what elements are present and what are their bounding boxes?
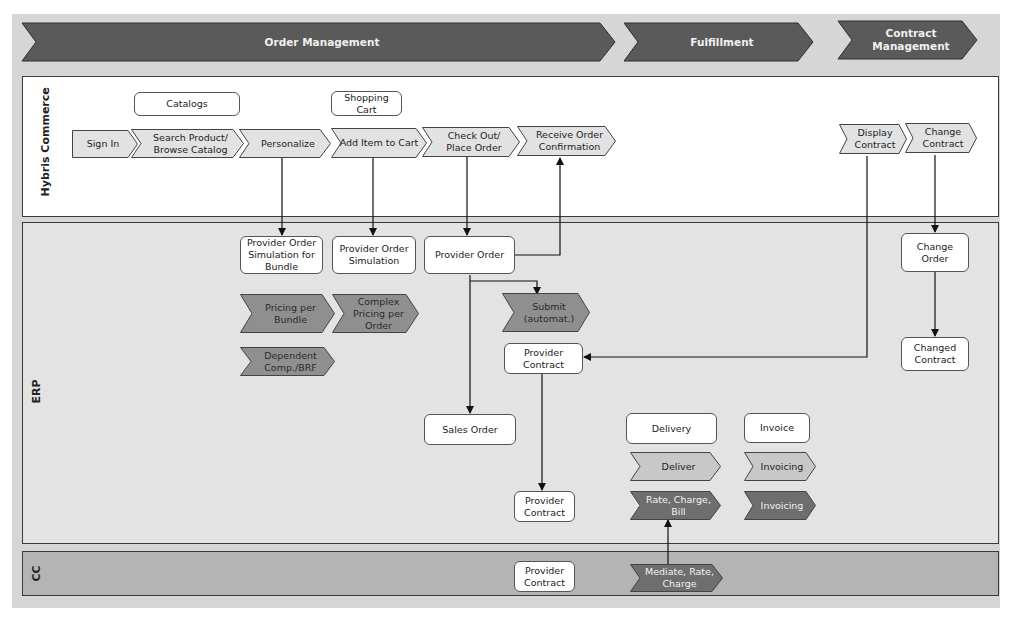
step-label: Rate, Charge, Bill	[632, 494, 719, 518]
changed-contract-box[interactable]: Changed Contract	[901, 337, 969, 371]
step-personalize[interactable]: Personalize	[239, 129, 331, 158]
step-label: Sign In	[83, 138, 128, 150]
step-label: Display Contract	[847, 127, 900, 151]
shopping-cart-box[interactable]: Shopping Cart	[331, 91, 402, 116]
change-order-box[interactable]: Change Order	[901, 233, 969, 272]
step-receive-confirmation[interactable]: Receive Order Confirmation	[517, 126, 616, 156]
sales-order-box[interactable]: Sales Order	[424, 414, 516, 445]
lane-label-erp: ERP	[30, 377, 43, 407]
dependent-comp-step[interactable]: Dependent Comp./BRF	[240, 347, 335, 376]
step-label: Add Item to Cart	[332, 137, 427, 149]
step-label: Invoicing	[751, 461, 810, 473]
invoice-box[interactable]: Invoice	[744, 413, 810, 443]
provider-order-box[interactable]: Provider Order	[424, 236, 515, 274]
lane-cc	[22, 551, 999, 596]
complex-pricing-step[interactable]: Complex Pricing per Order	[332, 294, 419, 333]
catalogs-box[interactable]: Catalogs	[134, 92, 240, 116]
cc-provider-contract-box[interactable]: Provider Contract	[514, 561, 575, 592]
lane-label-hybris: Hybris Commerce	[39, 97, 52, 197]
step-label: Change Contract	[915, 126, 968, 150]
step-label: Invoicing	[751, 500, 810, 512]
phase-label: Fulfillment	[666, 36, 771, 49]
phase-label: Order Management	[241, 36, 398, 49]
phase-label: Contract Management	[848, 27, 967, 53]
phase-contract-management: Contract Management	[838, 20, 978, 60]
step-label: Pricing per Bundle	[251, 302, 324, 326]
step-display-contract[interactable]: Display Contract	[839, 124, 907, 154]
pricing-per-bundle-step[interactable]: Pricing per Bundle	[240, 294, 335, 333]
lane-label-cc: CC	[30, 559, 43, 589]
step-label: Deliver	[648, 461, 704, 473]
provider-order-simulation-bundle-box[interactable]: Provider Order Simulation for Bundle	[240, 236, 323, 274]
invoicing-step-1[interactable]: Invoicing	[744, 452, 816, 481]
step-change-contract[interactable]: Change Contract	[905, 123, 977, 153]
mediate-rate-charge-step[interactable]: Mediate, Rate, Charge	[630, 564, 723, 592]
step-sign-in[interactable]: Sign In	[72, 130, 138, 158]
provider-contract-box-2[interactable]: Provider Contract	[514, 491, 575, 522]
step-label: Personalize	[247, 138, 323, 150]
process-diagram: Order Management Fulfillment Contract Ma…	[0, 0, 1019, 625]
submit-automat-step[interactable]: Submit (automat.)	[502, 293, 590, 332]
step-label: Mediate, Rate, Charge	[631, 566, 722, 590]
step-label: Complex Pricing per Order	[339, 296, 412, 332]
rate-charge-bill-step[interactable]: Rate, Charge, Bill	[630, 491, 721, 520]
step-check-out[interactable]: Check Out/ Place Order	[422, 127, 520, 157]
provider-order-simulation-box[interactable]: Provider Order Simulation	[332, 236, 416, 274]
step-search-product[interactable]: Search Product/ Browse Catalog	[131, 129, 244, 158]
deliver-step[interactable]: Deliver	[630, 452, 721, 481]
step-label: Check Out/ Place Order	[432, 130, 509, 154]
phase-fulfillment: Fulfillment	[624, 22, 814, 62]
step-label: Submit (automat.)	[510, 301, 583, 325]
step-label: Search Product/ Browse Catalog	[139, 132, 236, 156]
step-add-item-to-cart[interactable]: Add Item to Cart	[331, 128, 427, 158]
phase-order-management: Order Management	[22, 22, 616, 62]
delivery-box[interactable]: Delivery	[626, 413, 717, 444]
step-label: Receive Order Confirmation	[522, 129, 611, 153]
invoicing-step-2[interactable]: Invoicing	[744, 491, 816, 520]
step-label: Dependent Comp./BRF	[250, 350, 325, 374]
provider-contract-box[interactable]: Provider Contract	[504, 343, 583, 374]
